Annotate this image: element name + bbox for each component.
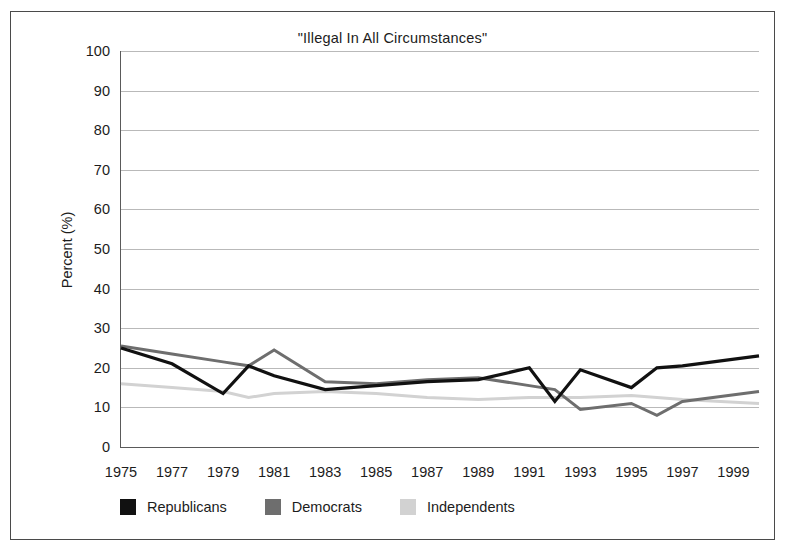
y-axis-tick-label: 40: [94, 281, 110, 297]
x-axis-tick-label: 1991: [513, 464, 545, 480]
y-axis-title: Percent (%): [57, 51, 77, 448]
x-axis-tick-label: 1995: [615, 464, 647, 480]
y-axis-tick-label: 70: [94, 162, 110, 178]
y-axis-tick-label: 80: [94, 122, 110, 138]
y-axis-tick-label: 60: [94, 201, 110, 217]
legend-swatch-icon: [265, 499, 281, 515]
x-axis-tick-label: 1997: [666, 464, 698, 480]
y-axis-tick-label: 10: [94, 399, 110, 415]
x-axis-tick-label: 1989: [462, 464, 494, 480]
x-axis-tick-label: 1977: [156, 464, 188, 480]
y-axis-title-text: Percent (%): [59, 211, 75, 288]
x-axis-tick-label: 1985: [360, 464, 392, 480]
y-axis-tick-label: 100: [86, 43, 110, 59]
x-axis-tick-label: 1983: [309, 464, 341, 480]
y-axis-tick-label: 90: [94, 83, 110, 99]
legend-swatch-icon: [120, 499, 136, 515]
legend-label: Democrats: [292, 499, 362, 515]
series-lines: [121, 51, 759, 447]
x-axis-tick-label: 1975: [105, 464, 137, 480]
x-axis-tick-label: 1993: [564, 464, 596, 480]
x-axis-tick-label: 1999: [717, 464, 749, 480]
legend-swatch-icon: [400, 499, 416, 515]
legend-label: Republicans: [147, 499, 227, 515]
legend-item: Republicans: [120, 499, 227, 515]
legend-label: Independents: [427, 499, 515, 515]
series-line-republicans: [121, 348, 759, 401]
y-axis-tick-label: 30: [94, 320, 110, 336]
x-axis-tick-label: 1979: [207, 464, 239, 480]
legend-item: Independents: [400, 499, 515, 515]
x-axis-tick-label: 1981: [258, 464, 290, 480]
y-axis-tick-label: 20: [94, 360, 110, 376]
legend-item: Democrats: [265, 499, 362, 515]
chart-title: "Illegal In All Circumstances": [11, 30, 774, 46]
y-axis-tick-label: 50: [94, 241, 110, 257]
chart-figure: "Illegal In All Circumstances" Percent (…: [10, 11, 775, 540]
x-axis-tick-label: 1987: [411, 464, 443, 480]
plot-area: 0102030405060708090100 19751977197919811…: [120, 51, 759, 448]
y-axis-tick-label: 0: [102, 439, 110, 455]
chart-legend: RepublicansDemocratsIndependents: [120, 499, 515, 515]
series-line-independents: [121, 384, 759, 404]
